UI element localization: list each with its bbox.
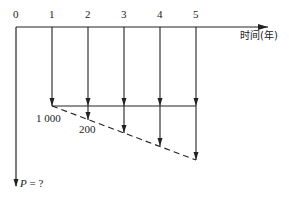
base-payment-arrows [52,27,196,160]
present-value-symbol: P [20,177,27,189]
present-value-label: P = ? [20,178,43,189]
present-value-rest: = ? [27,177,44,189]
time-axis-label: 时间(年) [240,31,278,41]
period-label-5: 5 [193,9,199,20]
period-label-0: 0 [13,9,19,20]
present-value-arrowhead-icon [14,179,19,187]
period-label-3: 3 [121,9,127,20]
gradient-label: 200 [79,124,96,135]
base-arrowheads [50,98,199,106]
period-label-2: 2 [85,9,91,20]
period-label-1: 1 [49,9,55,20]
base-payment-label: 1 000 [36,113,61,124]
period-label-4: 4 [157,9,163,20]
gradient-arrowheads [86,112,199,160]
